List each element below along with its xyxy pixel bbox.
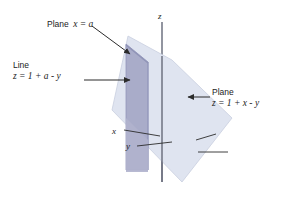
label-plane-z-word: Plane bbox=[212, 87, 259, 98]
label-line-math: z = 1 + a - y bbox=[13, 71, 61, 83]
label-plane-x-equals-a: Plane x = a bbox=[47, 12, 93, 32]
figure-canvas: Plane x = a Line z = 1 + a - y Plane z =… bbox=[0, 0, 304, 206]
label-plane-x-equals-a-math: x = a bbox=[73, 19, 93, 29]
leader-plane-x-equals-a bbox=[92, 26, 130, 54]
label-plane-x-equals-a-word: Plane bbox=[47, 19, 69, 29]
axis-label-y: y bbox=[126, 141, 130, 151]
label-line-word: Line bbox=[13, 60, 61, 71]
axis-label-z: z bbox=[158, 11, 162, 21]
label-plane-z: Plane z = 1 + x - y bbox=[212, 87, 259, 110]
axis-label-x: x bbox=[112, 126, 116, 136]
label-line: Line z = 1 + a - y bbox=[13, 60, 61, 83]
label-plane-z-math: z = 1 + x - y bbox=[212, 98, 259, 110]
